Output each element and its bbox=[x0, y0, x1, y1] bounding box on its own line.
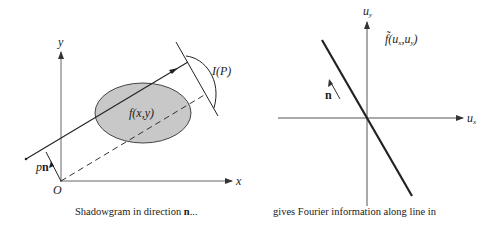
n-direction-label: n bbox=[325, 89, 332, 101]
x-axis-label: x bbox=[236, 175, 241, 187]
uy-label-sub: y bbox=[369, 11, 372, 19]
y-axis-label: y bbox=[58, 36, 63, 48]
pn-label-n: n bbox=[42, 160, 49, 174]
ux-label-sub: x bbox=[473, 118, 476, 126]
left-caption: Shadowgram in direction n... bbox=[75, 206, 198, 217]
left-caption-text: Shadowgram in direction bbox=[75, 206, 184, 217]
transform-label: f̃(ux,uy) bbox=[385, 33, 418, 47]
object-label: f(x,y) bbox=[129, 107, 154, 119]
right-caption: gives Fourier information along line in bbox=[273, 206, 436, 217]
projection-label: I(P) bbox=[212, 65, 231, 77]
left-caption-suffix: ... bbox=[190, 206, 198, 217]
pn-label: pn bbox=[36, 161, 49, 173]
shadowgram-figure bbox=[0, 0, 250, 228]
origin-label: O bbox=[53, 184, 62, 196]
uy-axis-label: uy bbox=[363, 5, 372, 19]
shadowgram-diagram: y x O f(x,y) I(P) pn Shadowgram in direc… bbox=[0, 0, 250, 228]
transform-label-prefix: f̃(u bbox=[385, 32, 398, 46]
ray-start-dot bbox=[25, 158, 28, 161]
ux-axis-label: ux bbox=[467, 112, 476, 126]
fourier-figure bbox=[250, 0, 495, 228]
fourier-diagram: uy ux f̃(ux,uy) n gives Fourier informat… bbox=[250, 0, 495, 228]
transform-label-suffix: ) bbox=[414, 32, 418, 46]
